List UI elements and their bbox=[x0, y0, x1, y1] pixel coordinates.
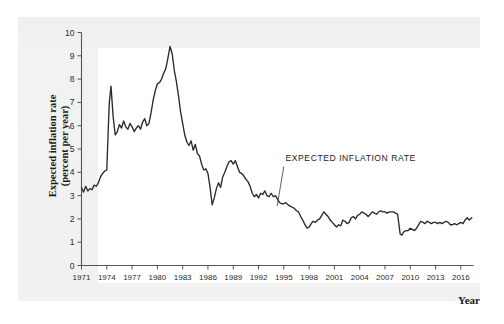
x-tick-label: 2016 bbox=[452, 273, 470, 282]
y-tick-label: 1 bbox=[70, 237, 75, 247]
y-tick-label: 9 bbox=[70, 51, 75, 61]
series-annotation: EXPECTED INFLATION RATE bbox=[277, 153, 416, 206]
y-tick-label: 4 bbox=[70, 167, 75, 177]
expected-inflation-line bbox=[82, 46, 472, 235]
x-tick-label: 1974 bbox=[98, 273, 116, 282]
x-tick-label: 1977 bbox=[123, 273, 141, 282]
data-line bbox=[82, 46, 472, 235]
y-tick-label: 10 bbox=[65, 28, 75, 38]
x-tick-label: 1995 bbox=[275, 273, 293, 282]
x-tick-label: 2013 bbox=[427, 273, 445, 282]
y-tick-label: 7 bbox=[70, 97, 75, 107]
x-tick-label: 1998 bbox=[300, 273, 318, 282]
x-tick-label: 1980 bbox=[148, 273, 166, 282]
annotation-leader-line bbox=[277, 166, 284, 206]
y-tick-label: 6 bbox=[70, 121, 75, 131]
x-tick-label: 1983 bbox=[174, 273, 192, 282]
y-tick-label: 5 bbox=[70, 144, 75, 154]
y-tick-label: 3 bbox=[70, 191, 75, 201]
x-tick-label: 2001 bbox=[326, 273, 344, 282]
x-tick-label: 1989 bbox=[224, 273, 242, 282]
x-tick-label: 1992 bbox=[250, 273, 268, 282]
annotation-label: EXPECTED INFLATION RATE bbox=[286, 153, 416, 163]
y-tick-label: 8 bbox=[70, 74, 75, 84]
x-tick-label: 2007 bbox=[376, 273, 394, 282]
y-tick-label: 2 bbox=[70, 214, 75, 224]
x-tick-label: 1971 bbox=[73, 273, 91, 282]
x-tick-label: 2010 bbox=[401, 273, 419, 282]
inflation-line-chart: 0123456789101971197419771980198319861989… bbox=[0, 0, 504, 324]
figure-page: Expected inflation rate (percent per yea… bbox=[0, 0, 504, 324]
x-tick-label: 1986 bbox=[199, 273, 217, 282]
x-tick-label: 2004 bbox=[351, 273, 369, 282]
y-tick-label: 0 bbox=[70, 261, 75, 271]
